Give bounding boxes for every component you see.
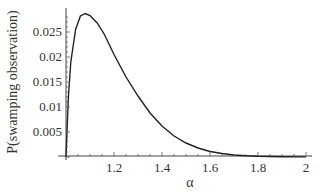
x-tick-label: 1.4 [154,160,171,175]
data-line [66,14,306,158]
y-tick-label: 0.01 [39,99,62,114]
y-axis-ticks: 0.0050.010.0150.020.025 [33,17,70,157]
line-chart: 1.21.41.61.82 0.0050.010.0150.020.025 α … [0,0,320,192]
x-tick-label: 2 [303,160,310,175]
x-tick-label: 1.2 [106,160,122,175]
y-tick-label: 0.025 [33,24,62,39]
y-tick-label: 0.02 [39,49,62,64]
x-tick-label: 1.8 [250,160,266,175]
axes [58,8,312,160]
x-tick-label: 1.6 [202,160,219,175]
x-axis-ticks: 1.21.41.61.82 [66,152,309,175]
x-axis-label: α [186,175,194,190]
y-axis-label: P(swamping observation) [5,10,21,154]
y-tick-label: 0.015 [33,74,62,89]
y-tick-label: 0.005 [33,124,62,139]
